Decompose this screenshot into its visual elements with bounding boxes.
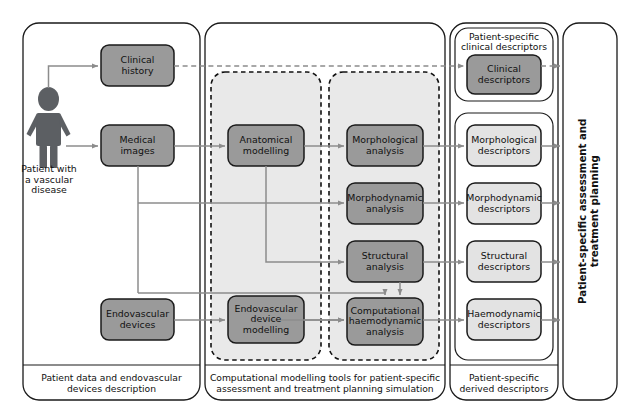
label-haemodynamic-descriptors[interactable]: Haemodynamic descriptors xyxy=(463,299,545,340)
label-line2: descriptors xyxy=(478,320,530,331)
label-clinical-descriptors[interactable]: Clinical descriptors xyxy=(467,55,541,94)
label-line1: Morphodynamic xyxy=(466,193,541,204)
label-morphological-descriptors[interactable]: Morphological descriptors xyxy=(464,125,544,166)
label-line1: Clinical xyxy=(487,64,521,75)
footer-line2: derived descriptors xyxy=(460,384,549,394)
label-line2: analysis xyxy=(366,262,404,273)
label-medical-images[interactable]: Medical images xyxy=(101,125,174,166)
patient-caption: Patient with a vascular disease xyxy=(8,160,90,200)
label-structural-analysis[interactable]: Structural analysis xyxy=(347,241,423,282)
label-line2: descriptors xyxy=(478,75,530,86)
footer-line1: Computational modelling tools for patien… xyxy=(210,373,440,383)
label-morphodynamic-descriptors[interactable]: Morphodynamic descriptors xyxy=(463,183,545,224)
footer-patient-data: Patient data and endovascular devices de… xyxy=(23,367,200,400)
label-line2: images xyxy=(120,146,154,157)
label-endovascular-devices[interactable]: Endovascular devices xyxy=(99,299,176,340)
label-line1: Morphodynamic xyxy=(347,193,422,204)
label-morphological-analysis[interactable]: Morphological analysis xyxy=(345,125,425,166)
patient-caption-line3: disease xyxy=(31,185,67,196)
label-line2: descriptors xyxy=(478,204,530,215)
label-line3: modelling xyxy=(243,325,289,336)
diagram-canvas: Patient with a vascular disease Clinical… xyxy=(0,0,630,420)
footer-line1: Patient data and endovascular xyxy=(41,373,181,383)
label-line1: Medical xyxy=(120,135,156,146)
label-line3: analysis xyxy=(366,327,404,338)
label-line1: Morphological xyxy=(352,135,418,146)
label-line2: modelling xyxy=(243,146,289,157)
label-morphodynamic-analysis[interactable]: Morphodynamic analysis xyxy=(344,183,426,224)
outcome-label-line2: treatment planning xyxy=(590,156,602,268)
footer-descriptors: Patient-specific derived descriptors xyxy=(450,367,558,400)
label-clinical-history[interactable]: Clinical history xyxy=(101,45,174,86)
caption-patient-specific-clinical-descriptors: Patient-specific clinical descriptors xyxy=(455,29,553,55)
label-line2: devices xyxy=(120,320,156,331)
label-line2: descriptors xyxy=(478,146,530,157)
label-computational-haemodynamic-analysis[interactable]: Computational haemodynamic analysis xyxy=(344,298,426,345)
label-line2: descriptors xyxy=(478,262,530,273)
outcome-label-line1: Patient-specific assessment and xyxy=(578,119,590,304)
label-line2: analysis xyxy=(366,204,404,215)
label-line1: Structural xyxy=(481,251,527,262)
caption-line2: clinical descriptors xyxy=(461,42,547,52)
label-line2: history xyxy=(121,66,153,77)
outcome-vertical-label: Patient-specific assessment and treatmen… xyxy=(578,119,602,304)
footer-modelling-tools: Computational modelling tools for patien… xyxy=(205,367,445,400)
label-line1: Anatomical xyxy=(240,135,293,146)
label-line1: Haemodynamic xyxy=(467,309,541,320)
label-line1: Structural xyxy=(362,251,408,262)
label-structural-descriptors[interactable]: Structural descriptors xyxy=(467,241,541,282)
footer-line2: assessment and treatment planning simula… xyxy=(216,384,433,394)
label-line2: analysis xyxy=(366,146,404,157)
label-line1: Morphological xyxy=(471,135,537,146)
label-endovascular-device-modelling[interactable]: Endovascular device modelling xyxy=(226,296,306,343)
footer-line2: devices description xyxy=(67,384,156,394)
label-line1: Clinical xyxy=(121,55,155,66)
label-line1: Endovascular xyxy=(106,309,169,320)
label-anatomical-modelling[interactable]: Anatomical modelling xyxy=(228,125,304,166)
footer-line1: Patient-specific xyxy=(469,373,539,383)
outcome-label-wrap: Patient-specific assessment and treatmen… xyxy=(563,23,617,400)
